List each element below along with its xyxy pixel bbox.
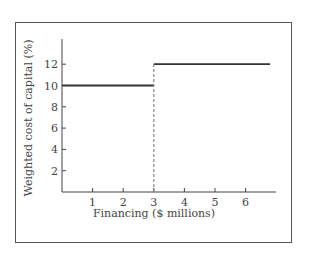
y-axis-title: Weighted cost of capital (%) [22, 40, 35, 197]
y-tick-label: 6 [51, 122, 58, 135]
x-ticks: 123456 [89, 188, 249, 209]
y-ticks: 24681012 [44, 58, 66, 178]
data-series [62, 64, 270, 192]
x-axis-title: Financing ($ millions) [93, 207, 215, 220]
y-tick-label: 12 [44, 58, 58, 71]
y-tick-label: 8 [51, 101, 58, 114]
y-tick-label: 10 [44, 80, 58, 93]
y-tick-label: 2 [51, 165, 58, 178]
y-tick-label: 4 [51, 143, 58, 156]
step-chart: 24681012 123456 Financing ($ millions) W… [0, 0, 310, 253]
x-tick-label: 6 [242, 196, 249, 209]
